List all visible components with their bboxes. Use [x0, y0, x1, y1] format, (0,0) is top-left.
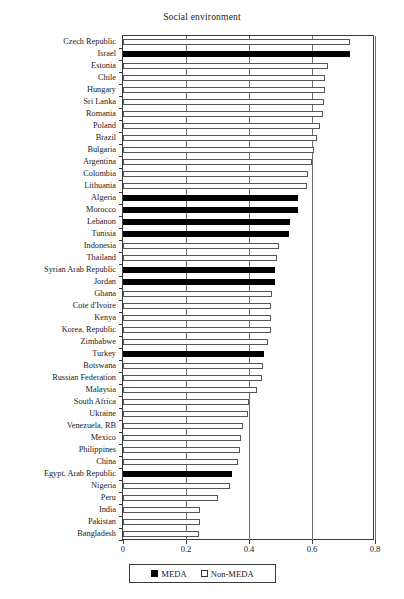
bar-nonmeda	[123, 303, 271, 309]
category-tick	[119, 288, 123, 289]
bar-meda	[123, 207, 298, 213]
bar-nonmeda	[123, 183, 307, 189]
category-tick	[119, 456, 123, 457]
bar-meda	[123, 195, 298, 201]
bar-nonmeda	[123, 255, 277, 261]
x-tick-label: 0.6	[307, 544, 318, 554]
category-tick	[119, 180, 123, 181]
bar-meda	[123, 279, 275, 285]
category-tick	[119, 504, 123, 505]
legend-swatch-non-meda	[201, 570, 208, 577]
category-tick	[119, 444, 123, 445]
bar-nonmeda	[123, 315, 271, 321]
bar-nonmeda	[123, 531, 199, 537]
x-tick-label: 0.4	[244, 544, 255, 554]
category-tick	[119, 420, 123, 421]
bar-nonmeda	[123, 147, 314, 153]
bar-meda	[123, 231, 289, 237]
category-tick	[119, 204, 123, 205]
category-tick	[119, 264, 123, 265]
bar-nonmeda	[123, 519, 200, 525]
category-tick	[119, 516, 123, 517]
bar-meda	[123, 219, 290, 225]
category-tick	[119, 528, 123, 529]
category-tick	[119, 216, 123, 217]
category-tick	[119, 384, 123, 385]
bar-nonmeda	[123, 483, 230, 489]
legend-item-meda: MEDA	[151, 569, 186, 579]
x-axis-ticks: 00.20.40.60.8	[0, 540, 404, 556]
legend-item-non-meda: Non-MEDA	[201, 569, 254, 579]
bar-nonmeda	[123, 447, 240, 453]
bar-meda	[123, 267, 275, 273]
bar-meda	[123, 351, 264, 357]
bar-nonmeda	[123, 75, 325, 81]
bar-nonmeda	[123, 159, 312, 165]
bar-nonmeda	[123, 375, 262, 381]
bar-nonmeda	[123, 387, 257, 393]
category-tick	[119, 84, 123, 85]
category-tick	[119, 492, 123, 493]
chart-legend: MEDA Non-MEDA	[129, 564, 276, 583]
bar-nonmeda	[123, 87, 325, 93]
category-tick	[119, 300, 123, 301]
category-tick	[119, 432, 123, 433]
category-tick	[119, 324, 123, 325]
bar-nonmeda	[123, 291, 272, 297]
x-tick-label: 0	[121, 544, 125, 554]
bar-nonmeda	[123, 123, 320, 129]
category-tick	[119, 192, 123, 193]
category-tick	[119, 108, 123, 109]
chart-figure: Social environment Czech RepublicIsraelE…	[0, 0, 404, 599]
category-tick	[119, 468, 123, 469]
category-tick	[119, 156, 123, 157]
bar-nonmeda	[123, 495, 218, 501]
bar-nonmeda	[123, 411, 248, 417]
bar-nonmeda	[123, 111, 323, 117]
category-tick	[119, 372, 123, 373]
bar-nonmeda	[123, 135, 317, 141]
bar-nonmeda	[123, 399, 249, 405]
bar-series	[0, 36, 404, 540]
x-tick-label: 0.2	[181, 544, 192, 554]
bar-nonmeda	[123, 171, 308, 177]
legend-label-non-meda: Non-MEDA	[211, 569, 254, 579]
category-tick	[119, 360, 123, 361]
category-tick	[119, 480, 123, 481]
category-tick	[119, 540, 123, 541]
category-tick	[119, 168, 123, 169]
category-tick	[119, 60, 123, 61]
x-tick-label: 0.8	[370, 544, 381, 554]
category-tick	[119, 252, 123, 253]
bar-meda	[123, 51, 350, 57]
category-tick	[119, 276, 123, 277]
category-tick	[119, 312, 123, 313]
bar-meda	[123, 471, 232, 477]
category-tick	[119, 396, 123, 397]
legend-label-meda: MEDA	[161, 569, 186, 579]
bar-nonmeda	[123, 327, 271, 333]
chart-title: Social environment	[0, 12, 404, 22]
category-tick	[119, 96, 123, 97]
bar-nonmeda	[123, 99, 324, 105]
category-tick	[119, 144, 123, 145]
bar-nonmeda	[123, 63, 328, 69]
bar-nonmeda	[123, 363, 263, 369]
category-tick	[119, 132, 123, 133]
category-tick	[119, 348, 123, 349]
bar-nonmeda	[123, 435, 241, 441]
bar-nonmeda	[123, 423, 243, 429]
bar-nonmeda	[123, 339, 268, 345]
category-tick	[119, 336, 123, 337]
legend-swatch-meda	[151, 570, 158, 577]
category-tick	[119, 72, 123, 73]
category-tick	[119, 228, 123, 229]
category-tick	[119, 240, 123, 241]
bar-nonmeda	[123, 459, 238, 465]
category-tick	[119, 408, 123, 409]
category-tick	[119, 48, 123, 49]
bar-nonmeda	[123, 507, 200, 513]
category-tick	[119, 120, 123, 121]
bar-nonmeda	[123, 39, 350, 45]
bar-nonmeda	[123, 243, 279, 249]
